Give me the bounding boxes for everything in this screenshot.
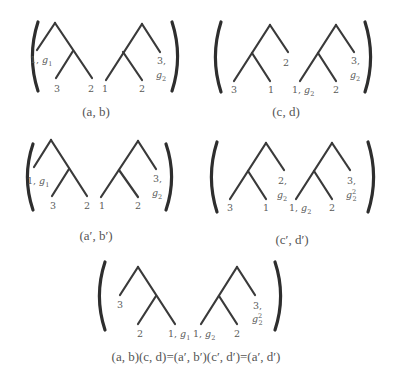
- leaf-label: 3: [117, 299, 123, 310]
- leaf-label: 3: [231, 84, 237, 95]
- panel-caption: (c, d): [272, 104, 299, 119]
- tree-edge: [34, 140, 51, 167]
- binary-tree-1: 1, g132: [27, 140, 90, 211]
- tree-edge: [336, 25, 354, 52]
- tree-edge: [119, 170, 138, 197]
- tree-edge: [138, 141, 156, 169]
- leaf-label: 2: [84, 200, 90, 211]
- tree-edge: [270, 25, 288, 52]
- left-parenthesis: [211, 142, 217, 212]
- binary-tree-2: 1, g223,g2: [292, 25, 360, 98]
- tree-edge: [332, 143, 350, 170]
- leaf-label: 1: [268, 84, 274, 95]
- tree-edge: [266, 143, 284, 170]
- panel-product: 321, g11, g223,g22(a, b)(c, d)=(a′, b′)(…: [99, 262, 280, 364]
- binary-tree-2: 1, g223,g22: [289, 143, 357, 216]
- left-parenthesis: [99, 262, 105, 330]
- leaf-label: 1: [99, 200, 105, 211]
- leaf-label: 2: [234, 328, 240, 339]
- leaf-label: 3,: [157, 55, 166, 66]
- tree-edge: [219, 296, 237, 324]
- tree-edge: [123, 52, 142, 80]
- panel-ab: 1, g132123,g2(a, b): [30, 22, 178, 119]
- tree-edge: [318, 53, 336, 81]
- leaf-label: g2: [277, 189, 287, 203]
- leaf-label: 1: [263, 202, 269, 213]
- leaf-label: 3,: [253, 300, 262, 311]
- leaf-label: 2,: [278, 175, 287, 186]
- tree-edge: [37, 23, 55, 50]
- panel-cd: 3121, g223,g2(c, d): [215, 22, 370, 119]
- panel-caption: (c′, d′): [275, 232, 308, 247]
- binary-tree-1: 312,g2: [227, 143, 287, 213]
- leaf-label: g2: [350, 69, 360, 83]
- diagram-svg: 1, g132123,g2(a, b)3121, g223,g2(c, d)1,…: [0, 0, 399, 382]
- leaf-label: g22: [346, 188, 357, 203]
- right-parenthesis: [166, 144, 172, 210]
- tree-edge: [142, 24, 160, 52]
- tree-edge: [252, 53, 270, 81]
- leaf-label: 1, g1: [168, 328, 190, 342]
- leaf-label: 1, g1: [27, 175, 49, 189]
- leaf-label: 2: [137, 328, 143, 339]
- leaf-label: 1, g2: [292, 84, 314, 98]
- panel-caption: (a, b)(c, d)=(a′, b′)(c′, d′)=(a′, d′): [112, 349, 281, 364]
- tree-edge: [237, 267, 255, 295]
- panel-a-prime-b-prime: 1, g132123,g2(a′, b′): [27, 140, 172, 243]
- leaf-label: 3: [227, 202, 233, 213]
- leaf-label: 1, g2: [289, 202, 311, 216]
- tree-edge: [120, 267, 138, 295]
- leaf-label: g22: [252, 312, 263, 327]
- leaf-label: 1: [102, 83, 108, 94]
- binary-tree-1: 1, g132: [30, 23, 94, 94]
- leaf-label: 3,: [153, 173, 162, 184]
- leaf-label: 2: [139, 83, 145, 94]
- right-parenthesis: [365, 22, 371, 92]
- binary-tree-1: 321, g1: [117, 267, 190, 342]
- leaf-label: 1, g2: [193, 328, 215, 342]
- panel-caption: (a, b): [82, 104, 109, 119]
- leaf-label: 3: [54, 83, 60, 94]
- left-parenthesis: [215, 22, 221, 92]
- leaf-label: 3,: [347, 175, 356, 186]
- tree-edge: [52, 169, 69, 196]
- tree-edge: [56, 51, 73, 78]
- leaf-label: 3: [50, 200, 56, 211]
- leaf-label: g2: [152, 187, 162, 201]
- tree-edge: [248, 171, 266, 199]
- right-parenthesis: [368, 142, 374, 212]
- right-parenthesis: [172, 22, 178, 91]
- leaf-label: 2: [88, 83, 94, 94]
- binary-tree-2: 123,g2: [102, 24, 166, 94]
- leaf-label: g2: [156, 69, 166, 83]
- leaf-label: 2: [329, 202, 335, 213]
- tree-pair-diagram: 1, g132123,g2(a, b)3121, g223,g2(c, d)1,…: [0, 0, 399, 382]
- leaf-label: 2: [135, 200, 141, 211]
- binary-tree-2: 1, g223,g22: [193, 267, 263, 342]
- leaf-label: 3,: [351, 55, 360, 66]
- tree-edge: [138, 296, 156, 324]
- panel-caption: (a′, b′): [79, 228, 112, 243]
- right-parenthesis: [275, 262, 281, 330]
- binary-tree-1: 312: [231, 25, 289, 95]
- tree-edge: [314, 171, 332, 199]
- panel-c-prime-d-prime: 312,g21, g223,g22(c′, d′): [211, 142, 373, 247]
- leaf-label: 2: [283, 57, 289, 68]
- leaf-label: 2: [333, 84, 339, 95]
- binary-tree-2: 123,g2: [99, 141, 162, 211]
